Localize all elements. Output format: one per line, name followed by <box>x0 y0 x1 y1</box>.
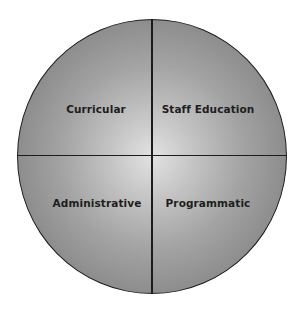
quadrant-diagram: Curricular Staff Education Administrativ… <box>0 0 302 313</box>
quadrant-label-staff-education: Staff Education <box>162 103 255 115</box>
vertical-divider <box>151 19 153 294</box>
horizontal-divider <box>17 155 287 157</box>
quadrant-label-curricular: Curricular <box>66 103 126 115</box>
quadrant-label-administrative: Administrative <box>53 197 142 209</box>
quadrant-label-programmatic: Programmatic <box>166 197 251 209</box>
